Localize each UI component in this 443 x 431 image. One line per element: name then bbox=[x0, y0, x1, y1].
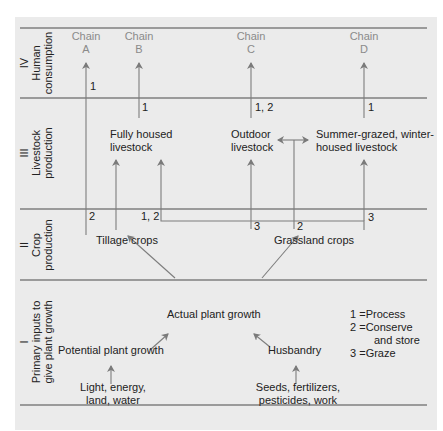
svg-text:give plant growth: give plant growth bbox=[42, 300, 54, 383]
svg-text:Chain: Chain bbox=[72, 30, 101, 42]
svg-text:3: 3 bbox=[254, 220, 260, 232]
svg-text:production: production bbox=[42, 219, 54, 270]
node-light-energy: Light, energy, land, water bbox=[80, 381, 146, 406]
svg-text:Chain: Chain bbox=[350, 30, 379, 42]
level-iv-label: IV Human consumption bbox=[18, 32, 54, 94]
svg-text:1: 1 bbox=[90, 80, 96, 92]
svg-text:1 =Process: 1 =Process bbox=[350, 308, 406, 320]
connectors bbox=[86, 63, 364, 384]
grass-to-housed-arrow bbox=[161, 160, 364, 230]
svg-text:Human: Human bbox=[30, 45, 42, 80]
svg-text:and store: and store bbox=[374, 334, 420, 346]
svg-text:land, water: land, water bbox=[86, 394, 140, 406]
node-seeds: Seeds, fertilizers, pesticides, work bbox=[256, 381, 340, 406]
svg-text:3: 3 bbox=[368, 211, 374, 223]
chain-a-header: Chain A bbox=[72, 30, 101, 55]
svg-text:Outdoor: Outdoor bbox=[231, 128, 271, 140]
svg-text:D: D bbox=[360, 43, 368, 55]
node-outdoor: Outdoor livestock bbox=[231, 128, 274, 153]
level-iii-label: III Livestock production bbox=[18, 127, 54, 178]
node-summer-grazed: Summer-grazed, winter- housed livestock bbox=[316, 128, 434, 153]
chain-c-header: Chain C bbox=[237, 30, 266, 55]
svg-text:Summer-grazed, winter-: Summer-grazed, winter- bbox=[316, 128, 434, 140]
svg-text:2: 2 bbox=[297, 220, 303, 232]
node-actual-growth: Actual plant growth bbox=[167, 308, 261, 320]
chain-d-header: Chain D bbox=[350, 30, 379, 55]
chain-b-header: Chain B bbox=[125, 30, 154, 55]
node-fully-housed: Fully housed livestock bbox=[110, 128, 172, 153]
svg-text:1, 2: 1, 2 bbox=[141, 210, 159, 222]
svg-text:A: A bbox=[82, 43, 90, 55]
svg-text:B: B bbox=[135, 43, 142, 55]
svg-text:1: 1 bbox=[142, 101, 148, 113]
svg-text:Chain: Chain bbox=[237, 30, 266, 42]
legend: 1 =Process 2 =Conserve and store 3 =Graz… bbox=[350, 308, 420, 359]
svg-text:Crop: Crop bbox=[30, 233, 42, 257]
svg-text:II: II bbox=[18, 242, 30, 248]
node-tillage: Tillage crops bbox=[96, 234, 158, 246]
svg-text:2 =Conserve: 2 =Conserve bbox=[350, 321, 413, 333]
svg-text:Primary inputs to: Primary inputs to bbox=[30, 301, 42, 384]
svg-text:production: production bbox=[42, 127, 54, 178]
node-potential-growth: Potential plant growth bbox=[58, 344, 164, 356]
level-ii-label: II Crop production bbox=[18, 219, 54, 270]
food-chain-diagram: IV Human consumption III Livestock produ… bbox=[0, 0, 443, 431]
node-husbandry: Husbandry bbox=[268, 344, 322, 356]
node-grassland: Grassland crops bbox=[274, 234, 355, 246]
svg-text:consumption: consumption bbox=[42, 32, 54, 94]
svg-text:housed livestock: housed livestock bbox=[316, 141, 398, 153]
svg-text:Fully housed: Fully housed bbox=[110, 128, 172, 140]
svg-text:Chain: Chain bbox=[125, 30, 154, 42]
svg-text:pesticides, work: pesticides, work bbox=[259, 394, 338, 406]
svg-text:1: 1 bbox=[368, 101, 374, 113]
svg-text:I: I bbox=[18, 340, 30, 343]
svg-text:C: C bbox=[247, 43, 255, 55]
svg-text:livestock: livestock bbox=[231, 141, 274, 153]
svg-text:Seeds, fertilizers,: Seeds, fertilizers, bbox=[256, 381, 340, 393]
svg-text:3 =Graze: 3 =Graze bbox=[350, 347, 396, 359]
svg-text:2: 2 bbox=[89, 210, 95, 222]
svg-text:Light, energy,: Light, energy, bbox=[80, 381, 146, 393]
svg-text:IV: IV bbox=[18, 57, 30, 68]
svg-text:livestock: livestock bbox=[110, 141, 153, 153]
level-i-label: I Primary inputs to give plant growth bbox=[18, 300, 54, 383]
svg-text:1, 2: 1, 2 bbox=[255, 101, 273, 113]
svg-text:III: III bbox=[18, 148, 30, 157]
svg-text:Livestock: Livestock bbox=[30, 130, 42, 176]
